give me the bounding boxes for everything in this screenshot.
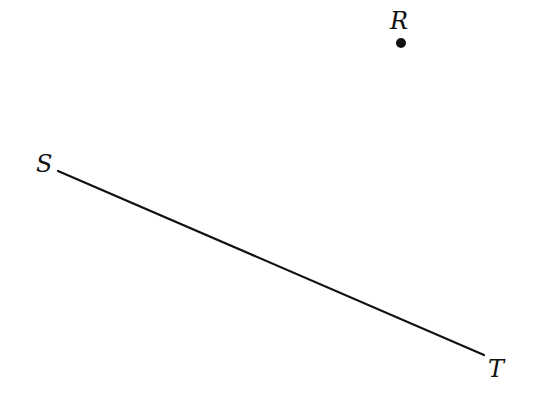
label-s: S: [36, 150, 52, 178]
segment-st: [58, 171, 484, 355]
geometry-diagram: R S T: [0, 0, 536, 397]
label-r: R: [389, 7, 408, 35]
label-t: T: [488, 355, 506, 383]
point-r-dot: [396, 38, 406, 48]
